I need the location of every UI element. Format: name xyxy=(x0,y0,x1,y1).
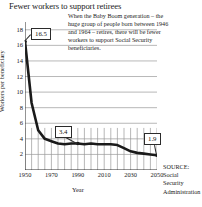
x-gridlines xyxy=(25,128,157,170)
y-axis-label: Workers per beneficiary xyxy=(0,50,5,112)
chart-title: Fewer workers to support retirees xyxy=(9,1,121,11)
chart-note: When the Baby Boom generation – the huge… xyxy=(68,12,172,52)
y-tick-2: 2 xyxy=(20,151,23,158)
x-tick-1990: 1990 xyxy=(71,172,84,178)
y-tick-4: 4 xyxy=(20,136,23,143)
x-tick-1970: 1970 xyxy=(45,172,58,178)
callout-value-1990: 3.4 xyxy=(55,126,72,138)
source-line-3: Administration xyxy=(163,188,200,195)
source-label: SOURCE: xyxy=(163,163,189,170)
chart-figure: Fewer workers to support retirees 246810… xyxy=(0,0,202,207)
source-line-1: Social xyxy=(163,171,178,178)
x-tick-1950: 1950 xyxy=(19,172,32,178)
y-tick-12: 12 xyxy=(16,73,23,80)
source-line-2: Security xyxy=(163,179,184,186)
x-tick-2030: 2030 xyxy=(124,172,137,178)
x-axis-label: Year xyxy=(72,186,84,193)
y-tick-14: 14 xyxy=(16,58,23,65)
y-tick-6: 6 xyxy=(20,120,23,127)
x-tick-2010: 2010 xyxy=(98,172,111,178)
y-tick-10: 10 xyxy=(16,89,23,96)
x-tick-2050: 2050 xyxy=(151,172,164,178)
y-tick-16: 16 xyxy=(16,42,23,49)
callout-value-2050: 1.9 xyxy=(144,133,161,145)
y-tick-18: 18 xyxy=(16,26,23,33)
y-tick-8: 8 xyxy=(20,104,23,111)
callout-value-1950: 16.5 xyxy=(31,28,51,40)
source-note: SOURCE: Social Security Administration xyxy=(163,163,202,196)
